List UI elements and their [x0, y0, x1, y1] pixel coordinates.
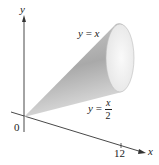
- lower-denominator: 2: [106, 111, 111, 121]
- x-tick-label: 12: [114, 148, 125, 159]
- upper-rhs: x: [95, 27, 100, 39]
- lower-lhs: y: [88, 102, 93, 114]
- lower-fraction: x 2: [105, 98, 112, 121]
- upper-curve-label: y = x: [78, 28, 100, 39]
- x-axis-label: x: [148, 146, 153, 157]
- cone-base: [106, 24, 134, 92]
- upper-lhs: y: [78, 27, 83, 39]
- x-axis: [11, 112, 142, 152]
- y-axis-label: y: [20, 4, 25, 15]
- cone-diagram: y 0 12 x y = x y = x 2: [0, 0, 159, 165]
- lower-eq: =: [96, 102, 102, 114]
- x-axis-arrow-icon: [138, 149, 146, 154]
- lower-curve-label: y = x 2: [88, 98, 112, 121]
- lower-numerator: x: [105, 98, 111, 108]
- diagram-canvas: [0, 0, 159, 165]
- upper-eq: =: [86, 27, 92, 39]
- origin-label: 0: [14, 122, 20, 133]
- y-axis-arrow-icon: [22, 15, 26, 22]
